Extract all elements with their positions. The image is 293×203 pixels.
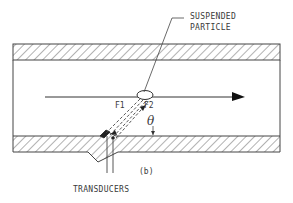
lower-pipe-wall [13,132,280,162]
suspended-particle [137,91,153,100]
label-transducers: TRANSDUCERS [73,186,129,194]
label-suspended: SUSPENDED [190,13,236,21]
upper-pipe-wall [13,44,280,60]
ultrasound-beams [106,99,149,138]
label-panel-b: (b) [139,168,153,176]
angle-arrowhead [151,131,155,135]
label-theta: θ [147,115,154,127]
label-particle: PARTICLE [190,24,231,32]
label-f2: F2 [144,102,154,110]
label-f1: F1 [115,102,125,110]
